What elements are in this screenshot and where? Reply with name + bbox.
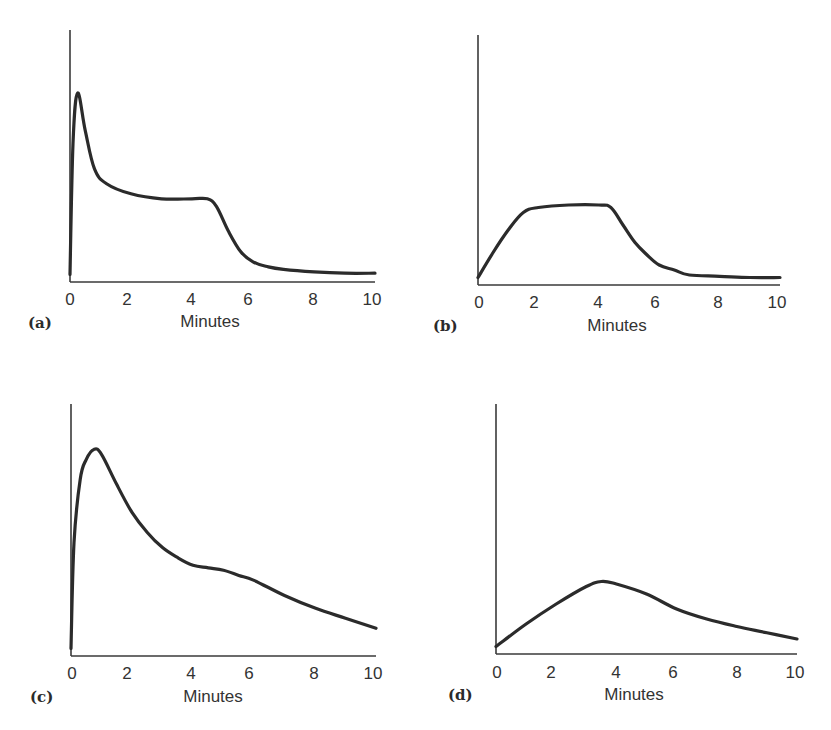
curve-d [496,581,797,646]
x-axis-title: Minutes [587,316,647,335]
x-tick-label: 0 [474,293,483,312]
x-tick-label: 8 [713,293,722,312]
x-tick-label: 0 [65,290,74,309]
x-tick-label: 2 [122,290,131,309]
panel-label: (a) [28,314,52,332]
curve-b [478,205,780,278]
panel-label: (b) [433,317,458,335]
curve-a [70,93,375,275]
x-tick-label: 4 [186,290,195,309]
x-tick-label: 0 [67,664,76,683]
x-tick-label: 8 [309,664,318,683]
x-tick-label: 6 [244,664,253,683]
figure: 0 2 4 6 8 10 Minutes (a) 0 2 4 6 8 10 Mi… [0,0,831,730]
panel-a: 0 2 4 6 8 10 Minutes (a) [28,30,381,332]
panel-c: 0 2 4 6 8 10 Minutes (c) [30,404,382,706]
x-tick-label: 10 [363,290,382,309]
x-axis-title: Minutes [604,685,664,704]
x-tick-labels: 0 2 4 6 8 10 [492,663,804,682]
curve-c [71,449,376,649]
x-tick-labels: 0 2 4 6 8 10 [65,290,381,309]
x-tick-labels: 0 2 4 6 8 10 [474,293,786,312]
x-tick-label: 6 [243,290,252,309]
panel-b: 0 2 4 6 8 10 Minutes (b) [433,35,786,335]
x-tick-label: 4 [593,293,602,312]
panel-label: (d) [448,686,473,704]
x-tick-label: 10 [364,664,383,683]
x-axis-title: Minutes [180,312,240,331]
panel-label: (c) [30,688,53,706]
x-tick-labels: 0 2 4 6 8 10 [67,664,382,683]
x-tick-label: 10 [768,293,787,312]
x-tick-label: 8 [732,663,741,682]
x-axis-title: Minutes [183,687,243,706]
x-tick-label: 8 [308,290,317,309]
panel-d: 0 2 4 6 8 10 Minutes (d) [448,404,804,704]
x-tick-label: 4 [611,663,620,682]
x-tick-label: 2 [529,293,538,312]
x-tick-label: 0 [492,663,501,682]
x-tick-label: 10 [786,663,805,682]
x-tick-label: 4 [186,664,195,683]
x-tick-label: 2 [546,663,555,682]
x-tick-label: 2 [122,664,131,683]
x-tick-label: 6 [668,663,677,682]
x-tick-label: 6 [650,293,659,312]
